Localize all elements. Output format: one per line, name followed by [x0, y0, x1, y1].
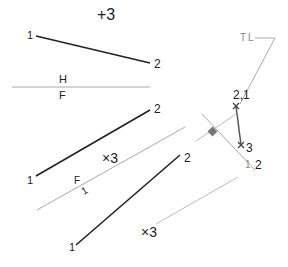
front-point-3-label: ×3 — [102, 151, 118, 165]
aux1-point-3-label: ×3 — [141, 225, 157, 239]
aux1-view-line-12 — [76, 155, 180, 245]
fold-line-f1 — [37, 127, 185, 210]
top-point-2-label: 2 — [154, 58, 161, 70]
descriptive-geometry-drawing: 1 2 +3 H F 1 2 ×3 F 1 1 2 ×3 TL 2,1 3 1 … — [0, 0, 288, 267]
fold-12-1-label: 1 — [245, 160, 251, 170]
aux2-point-21-label: 2,1 — [233, 89, 250, 101]
fold-f-label: F — [59, 90, 66, 101]
projection-line-2 — [196, 114, 236, 141]
projection-line-3 — [156, 177, 238, 224]
aux1-point-2-label: 2 — [184, 152, 191, 164]
fold-f1-f-label: F — [74, 176, 80, 186]
front-point-2-label: 2 — [154, 103, 161, 115]
top-point-1-label: 1 — [27, 30, 33, 41]
true-length-label: TL — [240, 33, 256, 43]
aux2-view-line — [236, 106, 241, 145]
front-view-line-12 — [36, 110, 150, 176]
aux2-point-3-label: 3 — [246, 142, 253, 154]
fold-12-2-label: 2 — [255, 159, 262, 171]
fold-h-label: H — [59, 74, 67, 85]
top-point-3-label: +3 — [97, 7, 115, 23]
front-point-1-label: 1 — [27, 175, 33, 186]
top-view-line-12 — [36, 36, 150, 63]
aux1-point-1-label: 1 — [69, 242, 75, 253]
